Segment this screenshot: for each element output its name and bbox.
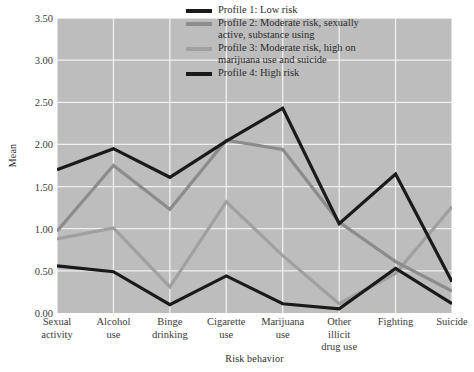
legend-label: Profile 2: Moderate risk, sexuallyactive…: [218, 17, 359, 41]
legend-item: Profile 4: High risk: [186, 67, 392, 79]
legend-color-swatch: [186, 72, 212, 76]
y-axis-tick-label: 2.50: [13, 97, 53, 108]
legend-color-swatch: [186, 22, 212, 26]
legend-label: Profile 1: Low risk: [218, 4, 298, 16]
chart-legend: Profile 1: Low riskProfile 2: Moderate r…: [186, 4, 392, 80]
series-line: [57, 108, 452, 282]
y-axis-tick-label: 1.00: [13, 223, 53, 234]
series-line: [57, 266, 452, 309]
legend-item: Profile 1: Low risk: [186, 4, 392, 16]
legend-item: Profile 3: Moderate risk, high onmarijua…: [186, 42, 392, 66]
y-axis-tick-label: 3.00: [13, 55, 53, 66]
x-axis-tick-label: Suicide: [419, 316, 474, 329]
x-axis-tick-labels: SexualactivityAlcoholuseBingedrinkingCig…: [57, 316, 452, 364]
legend-label: Profile 4: High risk: [218, 67, 299, 79]
y-axis-tick-label: 0.50: [13, 265, 53, 276]
y-axis-tick-label: 1.50: [13, 181, 53, 192]
y-axis-tick-label: 3.50: [13, 13, 53, 24]
y-axis-tick-label: 2.00: [13, 139, 53, 150]
legend-item: Profile 2: Moderate risk, sexuallyactive…: [186, 17, 392, 41]
line-chart-figure: Mean Risk behavior 0.000.501.001.502.002…: [0, 0, 474, 372]
legend-color-swatch: [186, 47, 212, 51]
legend-color-swatch: [186, 9, 212, 13]
legend-label: Profile 3: Moderate risk, high onmarijua…: [218, 42, 356, 66]
